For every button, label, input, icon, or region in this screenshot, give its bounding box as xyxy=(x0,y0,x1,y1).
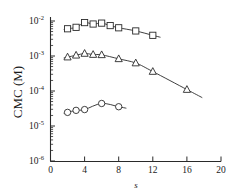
x-tick-label: 12 xyxy=(148,165,158,175)
y-tick-exponent: -4 xyxy=(39,84,45,91)
y-tick-exponent: -3 xyxy=(39,49,44,56)
y-tick-label: 10-2 xyxy=(29,14,44,26)
y-tick-mantissa: 10 xyxy=(29,16,39,26)
x-major-ticks xyxy=(51,157,222,162)
data-point-square xyxy=(99,20,105,26)
data-point-circle xyxy=(116,104,122,110)
y-tick-exponent: -5 xyxy=(39,119,44,126)
x-axis-label: s xyxy=(134,180,138,190)
y-tick-exponent: -6 xyxy=(39,154,45,161)
data-point-square xyxy=(82,20,88,26)
data-point-square xyxy=(64,26,70,32)
y-tick-label: 10-3 xyxy=(29,49,44,61)
y-tick-exponent: -2 xyxy=(39,14,44,21)
data-point-circle xyxy=(64,109,70,115)
x-tick-label: 8 xyxy=(116,165,121,175)
y-tick-label: 10-4 xyxy=(29,84,45,96)
series-triangles xyxy=(64,50,203,98)
data-point-circle xyxy=(81,106,87,112)
y-tick-labels: 10-2 10-3 10-4 10-5 10-6 xyxy=(29,14,45,166)
data-point-square xyxy=(73,24,79,30)
data-point-circle xyxy=(98,100,104,106)
data-point-circle xyxy=(73,107,79,113)
x-tick-label: 4 xyxy=(82,165,87,175)
x-tick-label: 0 xyxy=(48,165,53,175)
data-point-triangle xyxy=(81,50,88,57)
data-point-square xyxy=(133,28,139,34)
data-point-square xyxy=(90,21,96,27)
y-tick-label: 10-5 xyxy=(29,119,44,131)
chart-svg: CMC (M) 10-2 10-3 10-4 10-5 10-6 xyxy=(0,0,235,192)
data-point-square xyxy=(150,32,156,38)
x-tick-labels: 0 4 8 12 16 20 xyxy=(48,165,226,175)
y-tick-mantissa: 10 xyxy=(29,121,39,131)
series-line xyxy=(64,53,203,97)
series-squares xyxy=(64,20,161,39)
data-point-square xyxy=(116,25,122,31)
series-circles xyxy=(64,100,127,115)
y-tick-mantissa: 10 xyxy=(29,51,39,61)
y-axis-label: CMC (M) xyxy=(10,66,25,118)
y-tick-label: 10-6 xyxy=(29,154,45,166)
data-point-triangle xyxy=(149,68,156,75)
data-point-triangle xyxy=(183,86,190,93)
chart-figure: CMC (M) 10-2 10-3 10-4 10-5 10-6 xyxy=(0,0,235,192)
y-tick-mantissa: 10 xyxy=(29,156,39,166)
x-tick-label: 20 xyxy=(216,165,226,175)
y-tick-mantissa: 10 xyxy=(29,86,39,96)
plot-area xyxy=(64,20,203,116)
x-tick-label: 16 xyxy=(182,165,192,175)
data-point-square xyxy=(107,22,113,28)
